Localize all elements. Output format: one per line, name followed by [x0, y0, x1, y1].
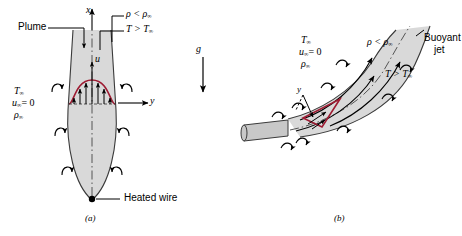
gravity-label: g: [196, 44, 201, 55]
density-condition-a: ρ < ρ∞: [126, 9, 152, 20]
x-axis-label: x: [86, 5, 90, 16]
buoyant-jet-label-line1: Buoyant: [424, 33, 461, 44]
density-condition-a-sub: ∞: [147, 12, 151, 19]
ambient-density-a: ρ∞: [14, 110, 23, 121]
temperature-condition-b: T > T∞: [385, 69, 412, 80]
heated-wire-label: Heated wire: [124, 193, 177, 204]
caption-a: (a): [85, 214, 96, 224]
ambient-velocity-a-value: = 0: [21, 97, 34, 108]
ambient-velocity-b-value: = 0: [308, 46, 321, 57]
figure-container: Plume x y u ρ < ρ∞ T > T∞ T∞ u∞= 0 ρ∞ He…: [0, 0, 462, 236]
temperature-condition-a: T > T∞: [126, 24, 153, 35]
density-condition-b: ρ < ρ∞: [367, 37, 393, 48]
pipe: [241, 120, 288, 141]
temperature-condition-a-sub: ∞: [149, 27, 153, 34]
velocity-label: u: [95, 54, 100, 65]
ambient-velocity-b: u∞= 0: [299, 47, 322, 58]
density-condition-b-sub: ∞: [388, 40, 392, 47]
y-axis-label: y: [150, 96, 154, 107]
heated-wire-dot: [89, 196, 95, 202]
temperature-condition-b-sub: ∞: [408, 72, 412, 79]
caption-b: (b): [334, 214, 345, 224]
ambient-velocity-a: u∞= 0: [12, 98, 35, 109]
buoyant-jet-label-line2: jet: [434, 45, 445, 56]
plume-label: Plume: [18, 22, 46, 33]
figure-svg: [0, 0, 462, 236]
ambient-density-a-sub: ∞: [19, 113, 23, 120]
ambient-density-b: ρ∞: [301, 59, 310, 70]
ambient-temperature-b: T∞: [301, 35, 311, 46]
y-axis-label-b: y: [297, 85, 301, 95]
ambient-temperature-b-sub: ∞: [307, 38, 311, 45]
ambient-temperature-a-sub: ∞: [20, 89, 24, 96]
ambient-density-b-sub: ∞: [306, 62, 310, 69]
ambient-temperature-a: T∞: [14, 86, 24, 97]
